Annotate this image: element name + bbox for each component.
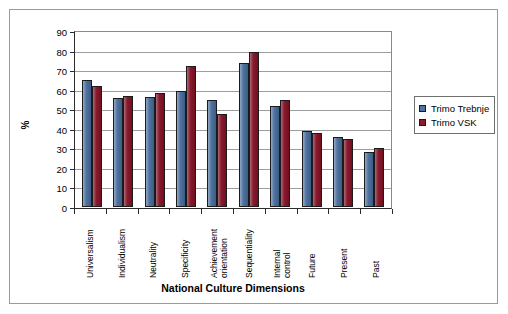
y-axis-tick-label: 80 (45, 46, 67, 57)
bar-group (202, 32, 233, 207)
x-axis-label-slot: Universalism (74, 214, 106, 280)
y-axis-tick-label: 0 (45, 203, 67, 214)
y-axis-tick-label: 30 (45, 144, 67, 155)
bar (270, 106, 280, 207)
legend-swatch-icon (419, 119, 426, 126)
legend-label: Trimo VSK (431, 117, 477, 128)
x-axis-label-slot: Past (360, 214, 392, 280)
x-axis-tick-label: Specificity (181, 240, 191, 278)
x-axis-title: National Culture Dimensions (74, 282, 392, 294)
bar (217, 114, 227, 207)
bar (92, 86, 102, 207)
x-axis-tick-label-line: Sequentiality (244, 229, 254, 278)
bar-group (359, 32, 390, 207)
bar (374, 148, 384, 207)
bar-groups (76, 32, 390, 207)
x-axis-tick-label: Present (340, 249, 350, 278)
x-axis-label-slot: Future (297, 214, 329, 280)
y-axis-title: % (11, 115, 41, 135)
x-axis-tick-label-line: orientation (219, 229, 229, 278)
x-axis-tick-label: Sequentiality (245, 229, 255, 278)
x-axis-tick-labels: UniversalismIndividualismNeutralitySpeci… (74, 214, 392, 280)
x-axis-tick-label-line: Present (339, 249, 349, 278)
legend-item[interactable]: Trimo Trebnje (419, 101, 489, 115)
bar (280, 100, 290, 207)
y-axis-tick-label: 70 (45, 66, 67, 77)
x-axis-label-slot: Sequentiality (233, 214, 265, 280)
legend-swatch-icon (419, 105, 426, 112)
bar-group (139, 32, 170, 207)
x-axis-tick-label: Internalcontrol (273, 250, 292, 278)
x-axis-label-slot: Specificity (169, 214, 201, 280)
bar (239, 63, 249, 207)
x-axis-tick-label: Neutrality (149, 242, 159, 278)
bar-group (107, 32, 138, 207)
x-axis-tick-label-line: Neutrality (148, 242, 158, 278)
legend-label: Trimo Trebnje (431, 103, 489, 114)
y-axis-tick-label: 20 (45, 163, 67, 174)
x-axis-label-slot: Neutrality (138, 214, 170, 280)
bar-group (170, 32, 201, 207)
bar (343, 139, 353, 207)
x-axis-tick-label: Universalism (86, 229, 96, 278)
bar (82, 80, 92, 207)
y-axis-tick-label: 50 (45, 105, 67, 116)
bar (145, 97, 155, 207)
bar (186, 66, 196, 207)
x-axis-label-slot: Internalcontrol (265, 214, 297, 280)
chart-legend: Trimo TrebnjeTrimo VSK (414, 96, 495, 134)
x-axis-label-slot: Achievementorientation (201, 214, 233, 280)
bar-group (327, 32, 358, 207)
bar-group (233, 32, 264, 207)
bar-group (264, 32, 295, 207)
x-axis-tick-label-line: Individualism (117, 229, 127, 278)
bar (155, 93, 165, 207)
x-axis-tick-label-line: Achievement (209, 229, 219, 278)
x-axis-label-slot: Present (328, 214, 360, 280)
x-axis-label-slot: Individualism (106, 214, 138, 280)
legend-item[interactable]: Trimo VSK (419, 115, 489, 129)
bar (302, 131, 312, 207)
bar (123, 96, 133, 207)
x-axis-tick-label-line: control (283, 250, 293, 278)
bar-group (296, 32, 327, 207)
y-axis-tick-label: 90 (45, 27, 67, 38)
bar (207, 100, 217, 207)
x-axis-tick-label-line: Specificity (180, 240, 190, 278)
bar (312, 133, 322, 207)
bar (113, 98, 123, 208)
y-axis-tick-label: 40 (45, 124, 67, 135)
bar (249, 52, 259, 207)
bar-group (76, 32, 107, 207)
chart-figure: % 9080706050403020100 UniversalismIndivi… (9, 9, 498, 304)
bar (364, 152, 374, 207)
x-axis-tick-label: Future (308, 253, 318, 278)
x-axis-tick-label: Past (372, 261, 382, 278)
x-axis-tick-label-line: Universalism (85, 229, 95, 278)
x-axis-tick-label: Achievementorientation (210, 229, 229, 278)
x-axis-tick-mark (392, 209, 393, 214)
y-axis-tick-label: 60 (45, 85, 67, 96)
plot-area (74, 31, 392, 209)
x-axis-tick-label-line: Past (371, 261, 381, 278)
y-axis-tick-label: 10 (45, 183, 67, 194)
x-axis-tick-label: Individualism (118, 229, 128, 278)
bar (176, 91, 186, 207)
x-axis-tick-label-line: Future (307, 253, 317, 278)
bar (333, 137, 343, 207)
x-axis-tick-label-line: Internal (272, 250, 282, 278)
